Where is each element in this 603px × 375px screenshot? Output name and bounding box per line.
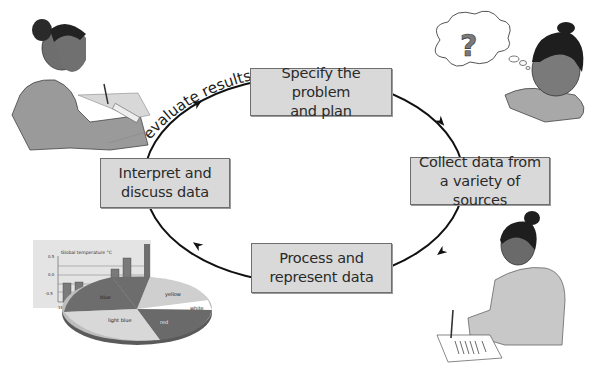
step-process-data: Process and represent data	[251, 243, 392, 293]
step-interpret-data: Interpret and discuss data	[100, 158, 230, 208]
svg-text:0.0: 0.0	[48, 272, 55, 277]
step-text-line: Process and	[269, 249, 373, 268]
step-text-line: Collect data from	[411, 153, 549, 172]
step-text-line: Interpret and	[119, 164, 212, 183]
svg-text:yellow: yellow	[165, 291, 181, 298]
svg-text:Global temperature °C: Global temperature °C	[61, 250, 112, 255]
pie-chart: blue yellow white red light blue	[62, 277, 212, 346]
step-specify-problem: Specify the problem and plan	[250, 68, 392, 116]
svg-text:light blue: light blue	[108, 317, 131, 324]
step-text-line: represent data	[269, 268, 373, 287]
step-collect-data: Collect data from a variety of sources	[410, 157, 550, 205]
data-handling-cycle-diagram: evaluate results ?	[0, 0, 603, 375]
svg-text:red: red	[160, 319, 168, 325]
svg-text:white: white	[190, 305, 204, 311]
step-text-line: discuss data	[119, 183, 212, 202]
step-text-line: a variety of sources	[411, 172, 549, 210]
svg-text:blue: blue	[100, 294, 111, 300]
svg-text:-0.5: -0.5	[45, 291, 53, 296]
svg-text:0.5: 0.5	[48, 254, 55, 259]
step-text-line: Specify the problem	[251, 64, 391, 102]
step-text-line: and plan	[251, 102, 391, 121]
